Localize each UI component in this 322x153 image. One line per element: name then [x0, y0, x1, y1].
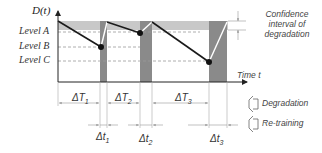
confidence-label-line-1: Confidence	[252, 9, 322, 19]
legend-degradation-label: Degradation	[262, 98, 308, 108]
delta-T1-label: ΔT1	[72, 92, 89, 105]
legend-retraining-label: Re-training	[262, 118, 304, 128]
confidence-label-line-2: interval of	[252, 19, 322, 29]
level-c-label: Level C	[19, 54, 50, 65]
threshold-point-3	[206, 59, 212, 65]
degradation-bracket-icon	[249, 96, 258, 112]
retraining-bar-2	[140, 21, 152, 82]
level-b-label: Level B	[19, 40, 49, 51]
level-a-label: Level A	[19, 25, 49, 36]
delta-t2-label: Δt2	[139, 133, 152, 146]
confidence-label: Confidence interval of degradation	[252, 9, 322, 39]
extension-lines	[58, 82, 227, 128]
retraining-bar-1	[100, 21, 107, 82]
delta-T3-label: ΔT3	[175, 92, 192, 105]
x-axis-label: Time t	[237, 70, 261, 80]
threshold-point-1	[98, 44, 104, 50]
threshold-point-2	[137, 30, 143, 36]
y-axis-label: D(t)	[32, 4, 50, 16]
confidence-label-line-3: degradation	[252, 29, 322, 39]
delta-T2-label: ΔT2	[115, 92, 132, 105]
retraining-bar-3	[209, 21, 227, 82]
retraining-bracket-icon	[249, 116, 258, 132]
delta-t1-label: Δt1	[96, 131, 109, 144]
delta-t3-label: Δt3	[210, 133, 223, 146]
